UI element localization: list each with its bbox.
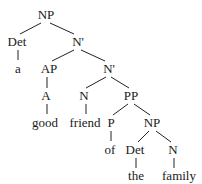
edge-nbar1-ap	[52, 50, 74, 61]
node-np-root: NP	[38, 8, 55, 22]
leaf-friend: friend	[69, 116, 100, 130]
leaf-of: of	[105, 143, 116, 157]
leaf-a: a	[15, 62, 21, 76]
node-ap: AP	[41, 62, 58, 76]
node-a: A	[41, 89, 50, 103]
edge-pp-p	[113, 104, 128, 115]
node-n-inner: N	[168, 143, 177, 157]
leaf-family: family	[162, 169, 196, 183]
edge-np2-n2	[156, 131, 171, 142]
edge-np2-det2	[138, 131, 149, 142]
node-det: Det	[8, 35, 27, 49]
leaf-the: the	[128, 169, 144, 183]
node-nbar-inner: N'	[103, 62, 115, 76]
edge-nbar2-pp	[111, 77, 129, 88]
edge-np1-nbar1	[50, 23, 74, 34]
edge-pp-np2	[134, 104, 150, 115]
node-det-inner: Det	[126, 143, 145, 157]
node-pp: PP	[124, 89, 138, 103]
leaf-good: good	[32, 116, 58, 130]
node-nbar: N'	[72, 35, 84, 49]
edge-nbar1-nbar2	[81, 50, 105, 61]
syntax-tree-diagram: NP Det a N' AP N' A good N friend PP P o…	[0, 0, 202, 184]
node-p: P	[107, 116, 114, 130]
node-n: N	[79, 89, 88, 103]
node-np-inner: NP	[144, 116, 161, 130]
edge-nbar2-n1	[86, 77, 106, 88]
edge-np1-det1	[20, 23, 41, 34]
